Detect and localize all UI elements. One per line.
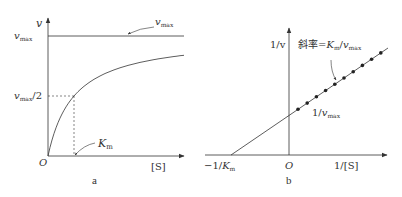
a-y-axis-label: v — [36, 17, 43, 30]
km-annotation-arrow — [75, 143, 95, 155]
vmax-annotation-label: vmax — [155, 16, 174, 28]
x-intercept-label: −1/Km — [204, 160, 236, 172]
b-x-axis-label: 1/[S] — [334, 160, 358, 171]
panel-b-caption: b — [286, 174, 292, 186]
panel-a: v vmax vmax/2 vmax Km O [S] a — [14, 16, 184, 186]
panel-a-caption: a — [92, 174, 97, 186]
data-point — [305, 101, 309, 105]
data-point — [379, 51, 383, 55]
data-point — [370, 57, 374, 61]
slope-annotation-arrow — [331, 60, 336, 80]
a-origin-label: O — [39, 157, 47, 168]
y-intercept-label: 1/vmax — [312, 107, 341, 119]
enzyme-kinetics-diagram: v vmax vmax/2 vmax Km O [S] a 1/v 斜率=Km/… — [0, 0, 402, 197]
michaelis-menten-curve — [48, 55, 184, 156]
slope-label: 斜率=Km/vmax — [298, 38, 362, 51]
data-point — [351, 70, 355, 74]
km-annotation-label: Km — [97, 137, 113, 151]
data-point — [333, 83, 337, 87]
half-vmax-tick-label: vmax/2 — [14, 90, 42, 102]
panel-b: 1/v 斜率=Km/vmax 1/vmax −1/Km O 1/[S] b — [204, 28, 388, 186]
vmax-tick-label: vmax — [14, 30, 33, 42]
data-point — [315, 95, 319, 99]
b-y-axis-label: 1/v — [270, 39, 286, 50]
b-origin-label: O — [285, 160, 293, 171]
a-x-axis-label: [S] — [151, 161, 166, 172]
data-point — [296, 108, 300, 112]
vmax-annotation-arrow — [128, 27, 154, 34]
lineweaver-burk-line — [231, 48, 388, 155]
data-point — [324, 89, 328, 93]
data-point — [361, 64, 365, 68]
data-point — [342, 76, 346, 80]
